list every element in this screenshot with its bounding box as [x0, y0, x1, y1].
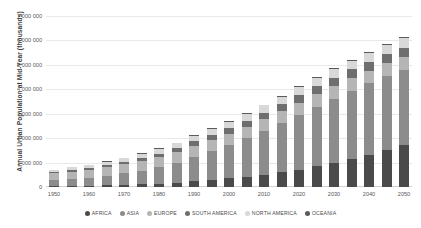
- legend-item[interactable]: ASIA: [120, 210, 139, 216]
- bar-column[interactable]: [84, 16, 94, 187]
- x-axis-tick-label: 2010: [249, 191, 279, 197]
- bar-segment: [347, 159, 357, 187]
- bar-column[interactable]: [364, 16, 374, 187]
- bar-segment: [364, 155, 374, 187]
- x-axis-tick-labels: 1950196019701980199020002010202020302040…: [46, 191, 412, 203]
- legend-label: ASIA: [127, 210, 139, 216]
- x-axis-tick-label: 2040: [354, 191, 384, 197]
- bar-column[interactable]: [399, 16, 409, 187]
- bar-segment: [347, 78, 357, 91]
- bar-segment: [189, 146, 199, 157]
- bar-segment: [224, 145, 234, 178]
- bar-segment: [382, 45, 392, 54]
- bar-column[interactable]: [347, 16, 357, 187]
- bar-segment: [207, 180, 217, 187]
- legend-item[interactable]: NORTH AMERICA: [245, 210, 297, 216]
- bar-segment: [137, 184, 147, 187]
- x-axis-tick-label: 2030: [319, 191, 349, 197]
- legend-swatch-icon: [185, 211, 190, 216]
- bar-segment: [172, 152, 182, 163]
- bar-segment: [382, 76, 392, 150]
- bar-segment: [382, 150, 392, 187]
- legend-item[interactable]: EUROPE: [147, 210, 177, 216]
- bar-segment: [329, 163, 339, 187]
- bar-segment: [137, 171, 147, 185]
- bar-column[interactable]: [382, 16, 392, 187]
- legend-swatch-icon: [85, 211, 90, 216]
- legend-label: NORTH AMERICA: [252, 210, 297, 216]
- bar-column[interactable]: [329, 16, 339, 187]
- bar-column[interactable]: [154, 16, 164, 187]
- bar-segment: [242, 177, 252, 187]
- y-axis-tick-label: 2 000 000: [0, 135, 42, 141]
- bar-column[interactable]: [102, 16, 112, 187]
- bar-segment: [294, 115, 304, 170]
- bar-column[interactable]: [49, 16, 59, 187]
- bar-column[interactable]: [207, 16, 217, 187]
- legend-label: SOUTH AMERICA: [192, 210, 237, 216]
- legend-swatch-icon: [305, 211, 310, 216]
- bar-segment: [102, 167, 112, 175]
- bar-segment: [312, 166, 322, 187]
- x-axis-tick-label: 2000: [214, 191, 244, 197]
- y-axis-tick-label: 5 000 000: [0, 62, 42, 68]
- bar-segment: [277, 111, 287, 123]
- bar-column[interactable]: [259, 16, 269, 187]
- bar-segment: [364, 53, 374, 62]
- y-axis-tick-label: 3 000 000: [0, 111, 42, 117]
- bar-segment: [172, 163, 182, 183]
- bar-segment: [49, 186, 59, 187]
- bar-segment: [399, 145, 409, 187]
- bar-segment: [154, 184, 164, 187]
- bar-segment: [329, 86, 339, 99]
- bar-segment: [364, 62, 374, 71]
- bar-segment: [67, 186, 77, 187]
- bar-segment: [259, 113, 269, 120]
- bar-segment: [364, 71, 374, 84]
- legend-swatch-icon: [147, 211, 152, 216]
- bar-column[interactable]: [119, 16, 129, 187]
- legend-label: OCEANIA: [312, 210, 336, 216]
- bar-segment: [137, 161, 147, 171]
- bar-segment: [312, 94, 322, 106]
- bar-segment: [347, 61, 357, 70]
- bar-column[interactable]: [294, 16, 304, 187]
- bar-column[interactable]: [242, 16, 252, 187]
- y-axis-tick-label: 6 000 000: [0, 37, 42, 43]
- bar-segment: [294, 87, 304, 95]
- stacked-bar-chart: Annual Urban Population at Mid-Year (tho…: [0, 0, 421, 228]
- chart-legend: AFRICAASIAEUROPESOUTH AMERICANORTH AMERI…: [0, 210, 421, 216]
- x-axis-tick-label: 1950: [39, 191, 69, 197]
- bar-segment: [172, 183, 182, 187]
- bar-segment: [329, 69, 339, 77]
- bar-segment: [119, 164, 129, 173]
- bar-segment: [382, 63, 392, 76]
- bar-segment: [399, 38, 409, 48]
- bar-segment: [277, 123, 287, 172]
- bar-column[interactable]: [189, 16, 199, 187]
- bar-column[interactable]: [172, 16, 182, 187]
- bar-segment: [189, 181, 199, 187]
- bar-segment: [242, 127, 252, 138]
- bar-column[interactable]: [137, 16, 147, 187]
- x-axis-tick-label: 2050: [389, 191, 419, 197]
- legend-item[interactable]: SOUTH AMERICA: [185, 210, 237, 216]
- bar-segment: [67, 172, 77, 179]
- y-axis-tick-label: 0: [0, 184, 42, 190]
- bar-column[interactable]: [312, 16, 322, 187]
- bar-column[interactable]: [277, 16, 287, 187]
- bar-segment: [329, 99, 339, 163]
- bar-segment: [259, 131, 269, 175]
- x-axis-tick-label: 1960: [74, 191, 104, 197]
- bar-segment: [347, 69, 357, 78]
- bar-segment: [119, 185, 129, 187]
- legend-item[interactable]: OCEANIA: [305, 210, 336, 216]
- bar-segment: [154, 157, 164, 167]
- legend-item[interactable]: AFRICA: [85, 210, 112, 216]
- bar-column[interactable]: [67, 16, 77, 187]
- bar-column[interactable]: [224, 16, 234, 187]
- bar-segment: [207, 140, 217, 151]
- bar-segment: [277, 104, 287, 111]
- bar-segment: [224, 134, 234, 145]
- bar-segment: [49, 173, 59, 180]
